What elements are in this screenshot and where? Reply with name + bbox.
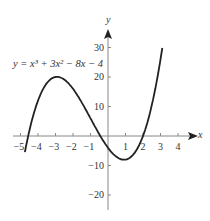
tick-marks	[21, 48, 179, 196]
x-tick-label: −5	[14, 142, 25, 152]
y-tick-label: −20	[88, 190, 104, 200]
chart-canvas	[0, 0, 210, 221]
x-tick-label: −3	[49, 142, 60, 152]
equation-label: y = x³ + 3x² − 8x − 4	[13, 59, 103, 70]
x-tick-label: −1	[84, 142, 95, 152]
x-tick-label: −4	[31, 142, 42, 152]
y-tick-label: 30	[94, 43, 104, 53]
x-axis-label: x	[198, 130, 202, 140]
x-tick-label: 2	[141, 142, 146, 152]
x-tick-label: 4	[176, 142, 181, 152]
y-axis-label: y	[106, 15, 110, 25]
x-tick-label: 1	[123, 142, 128, 152]
x-tick-label: −2	[66, 142, 77, 152]
y-tick-label: 20	[94, 72, 104, 82]
y-tick-label: 10	[94, 102, 104, 112]
y-tick-label: −10	[88, 161, 104, 171]
x-tick-label: 3	[158, 142, 163, 152]
